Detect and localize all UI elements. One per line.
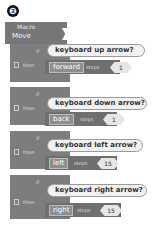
step-number-badge: ❷ <box>7 5 19 17</box>
direction-dropdown[interactable]: left <box>49 158 68 169</box>
condition-pill[interactable]: keyboard down arrow? <box>47 97 147 110</box>
steps-label: steps <box>86 64 99 70</box>
steps-value[interactable]: 15 <box>100 205 122 216</box>
if-label: if <box>36 179 39 185</box>
steps-value[interactable]: 15 <box>97 158 119 169</box>
gear-icon[interactable] <box>14 105 19 111</box>
then-label: then <box>23 199 34 205</box>
procedure-name: Move <box>12 32 31 40</box>
gear-icon[interactable] <box>14 62 19 68</box>
if-label: if <box>36 48 39 54</box>
then-label: then <box>23 62 34 68</box>
condition-pill[interactable]: keyboard up arrow? <box>47 44 145 57</box>
condition-pill[interactable]: keyboard right arrow? <box>47 184 147 197</box>
if-label: if <box>36 91 39 97</box>
steps-label: steps <box>74 160 87 166</box>
if-label: if <box>36 135 39 141</box>
steps-label: steps <box>80 116 93 122</box>
then-label: then <box>23 149 34 155</box>
steps-value[interactable]: 1 <box>103 114 125 125</box>
condition-pill[interactable]: keyboard left arrow? <box>47 139 143 152</box>
steps-value[interactable]: 1 <box>110 62 132 73</box>
then-label: then <box>23 105 34 111</box>
steps-label: steps <box>77 207 90 213</box>
procedure-label: Macro <box>17 23 35 30</box>
direction-dropdown[interactable]: right <box>49 205 73 216</box>
gear-icon[interactable] <box>14 149 19 155</box>
direction-dropdown[interactable]: back <box>49 114 74 125</box>
direction-dropdown[interactable]: forward <box>49 62 84 73</box>
gear-icon[interactable] <box>14 199 19 205</box>
